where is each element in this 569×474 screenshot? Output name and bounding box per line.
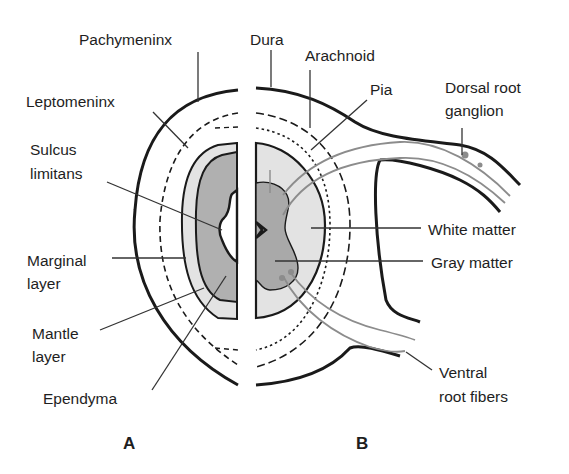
panel-label-a: A	[123, 434, 135, 454]
motor-neuron-1	[288, 269, 294, 275]
label-dorsal-root-ganglion-2: ganglion	[445, 101, 504, 120]
label-ependyma: Ependyma	[43, 389, 117, 408]
label-marginal-layer-1: Marginal	[27, 251, 86, 270]
ganglion-cell-2	[478, 163, 483, 168]
label-dorsal-root-ganglion-1: Dorsal root	[445, 78, 521, 97]
label-arachnoid: Arachnoid	[305, 46, 375, 65]
label-gray-matter: Gray matter	[431, 253, 513, 272]
label-pia: Pia	[370, 80, 392, 99]
label-mantle-layer-1: Mantle	[32, 324, 79, 343]
label-mantle-layer-2: layer	[32, 347, 66, 366]
label-dura: Dura	[250, 30, 284, 49]
label-sulcus-limitans-2: limitans	[30, 164, 83, 183]
label-sulcus-limitans-1: Sulcus	[30, 140, 77, 159]
label-ventral-root-fibers-1: Ventral	[439, 363, 487, 382]
label-marginal-layer-2: layer	[27, 274, 61, 293]
label-white-matter: White matter	[428, 220, 516, 239]
label-pachymeninx: Pachymeninx	[79, 30, 172, 49]
dura-root-inner	[375, 160, 420, 322]
dura-lower	[256, 347, 400, 385]
label-leptomeninx: Leptomeninx	[26, 92, 115, 111]
motor-neuron-2	[279, 275, 285, 281]
label-ventral-root-fibers-2: root fibers	[439, 387, 508, 406]
panel-label-b: B	[356, 434, 368, 454]
